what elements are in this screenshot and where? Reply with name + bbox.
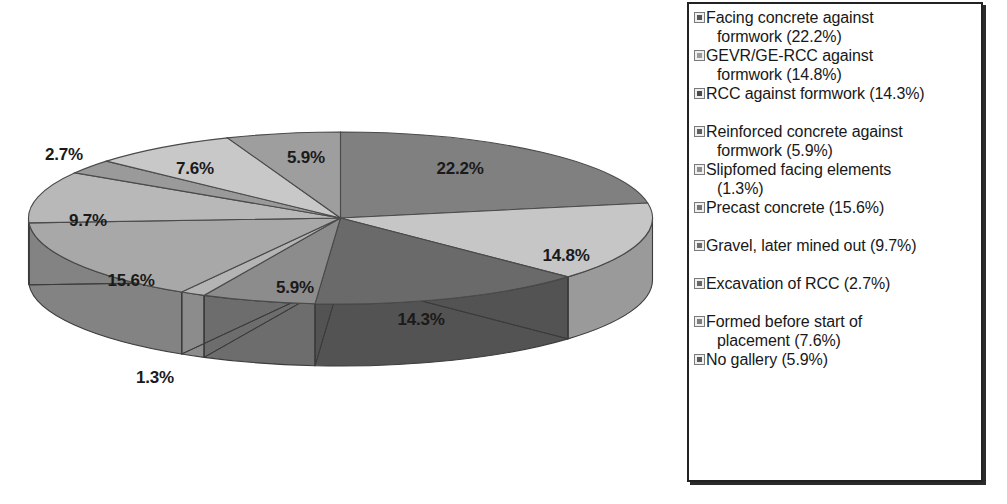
slice-value-label: 14.8%: [542, 246, 589, 266]
legend-item-label: Gravel, later mined out (9.7%): [706, 236, 916, 255]
legend-item-label-continued: formwork (22.2%): [706, 27, 874, 46]
legend-item[interactable]: No gallery (5.9%): [694, 350, 977, 369]
legend-item[interactable]: Slipfomed facing elements(1.3%): [694, 160, 977, 198]
legend-item-label: Formed before start ofplacement (7.6%): [706, 312, 862, 350]
legend-item[interactable]: Precast concrete (15.6%): [694, 198, 977, 217]
legend-item[interactable]: GEVR/GE-RCC againstformwork (14.8%): [694, 46, 977, 84]
legend-list: Facing concrete againstformwork (22.2%)G…: [694, 8, 977, 369]
legend-item-label: Excavation of RCC (2.7%): [706, 274, 890, 293]
pie-chart-area: Facing concrete against formworkGEVR/GE-…: [0, 0, 670, 504]
legend-item-label: Slipfomed facing elements(1.3%): [706, 160, 891, 198]
legend-item-label-continued: formwork (5.9%): [706, 141, 903, 160]
slice-value-label: 14.3%: [397, 310, 444, 330]
legend-item-label-continued: (1.3%): [706, 179, 891, 198]
legend-item-label: GEVR/GE-RCC againstformwork (14.8%): [706, 46, 873, 84]
legend-swatch-icon: [694, 126, 705, 137]
slice-value-label: 15.6%: [107, 271, 154, 291]
legend-item-label: Reinforced concrete againstformwork (5.9…: [706, 122, 903, 160]
legend-swatch-icon: [694, 316, 705, 327]
legend-swatch-icon: [694, 202, 705, 213]
slice-value-label: 1.3%: [136, 368, 174, 388]
legend-swatch-icon: [694, 164, 705, 175]
legend-item-label-continued: placement (7.6%): [706, 331, 862, 350]
slice-value-label: 5.9%: [287, 148, 325, 168]
pie-slice-side: [204, 295, 315, 365]
legend-item[interactable]: Gravel, later mined out (9.7%): [694, 236, 977, 255]
legend-item-label: Precast concrete (15.6%): [706, 198, 884, 217]
legend-item[interactable]: Excavation of RCC (2.7%): [694, 274, 977, 293]
legend-swatch-icon: [694, 50, 705, 61]
legend-item-label: No gallery (5.9%): [706, 350, 828, 369]
legend-swatch-icon: [694, 88, 705, 99]
slice-value-label: 2.7%: [45, 145, 83, 165]
slice-value-label: 22.2%: [436, 159, 483, 179]
legend-swatch-icon: [694, 278, 705, 289]
legend-swatch-icon: [694, 12, 705, 23]
slice-value-label: 9.7%: [69, 211, 107, 231]
legend-swatch-icon: [694, 354, 705, 365]
legend-swatch-icon: [694, 240, 705, 251]
pie-slice-side: [182, 292, 204, 357]
slice-value-label: 7.6%: [176, 159, 214, 179]
legend-item-label-continued: formwork (14.8%): [706, 65, 873, 84]
legend: Facing concrete againstformwork (22.2%)G…: [687, 2, 983, 482]
legend-item-label: RCC against formwork (14.3%): [706, 84, 925, 103]
legend-item[interactable]: Formed before start ofplacement (7.6%): [694, 312, 977, 350]
legend-item[interactable]: RCC against formwork (14.3%): [694, 84, 977, 103]
legend-item[interactable]: Facing concrete againstformwork (22.2%): [694, 8, 977, 46]
slice-value-label: 5.9%: [276, 278, 314, 298]
legend-item-label: Facing concrete againstformwork (22.2%): [706, 8, 874, 46]
legend-item[interactable]: Reinforced concrete againstformwork (5.9…: [694, 122, 977, 160]
